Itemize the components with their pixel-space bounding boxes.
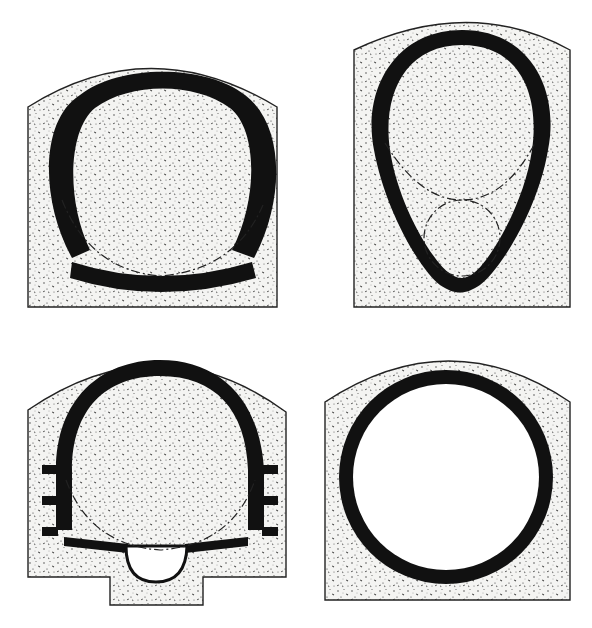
niche-left-2 <box>42 496 58 505</box>
section-bottom-left-horseshoe-drain <box>28 360 286 605</box>
section-bottom-right-circular <box>325 361 570 600</box>
niche-right-3 <box>262 527 278 536</box>
niche-right-2 <box>262 496 278 505</box>
tunnel-sections-diagram <box>0 0 592 628</box>
niche-left-1 <box>42 465 58 474</box>
section-top-left-horseshoe <box>28 69 277 308</box>
section-top-right-egg <box>354 23 570 308</box>
niche-right-1 <box>262 465 278 474</box>
tunnel-bore <box>353 384 539 570</box>
niche-left-3 <box>42 527 58 536</box>
